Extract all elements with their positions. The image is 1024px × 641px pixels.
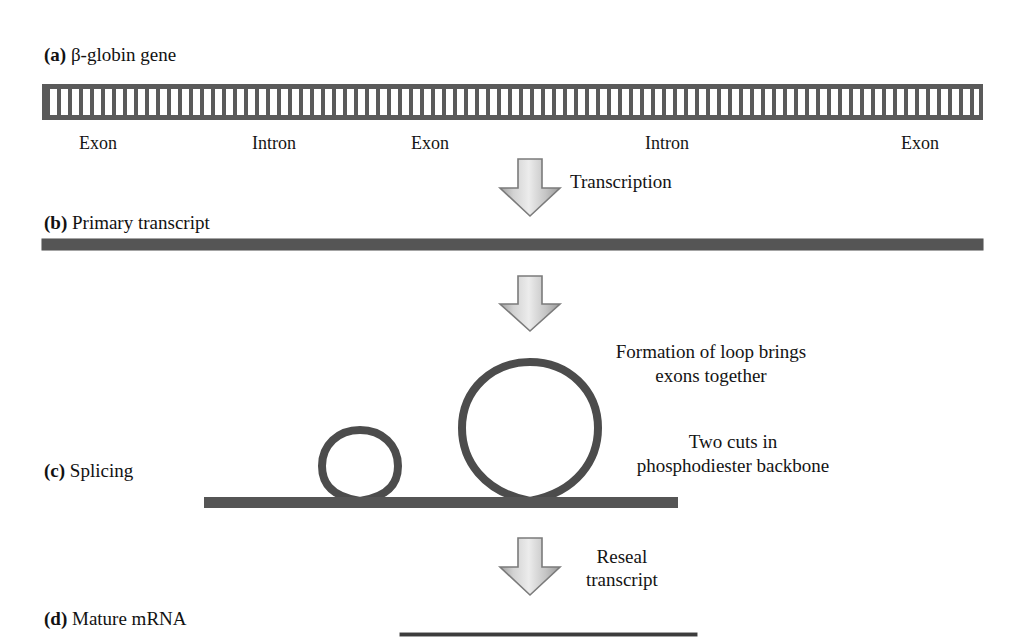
intron-loop-large (462, 362, 598, 501)
gene-segment-intron-1: Intron (252, 133, 296, 153)
panel-tag-a: (a) (44, 44, 66, 65)
panel-tag-b: (b) (44, 212, 67, 233)
reseal-arrow-icon (498, 537, 562, 597)
splicing-arrow-icon (498, 275, 562, 333)
gene-ladder-rungs (46, 89, 979, 115)
splicing-backbone-strand (204, 497, 678, 508)
panel-tag-c: (c) (44, 460, 65, 481)
panel-label-d: (d) Mature mRNA (44, 608, 187, 630)
panel-label-c: (c) Splicing (44, 460, 133, 482)
panel-title-c: Splicing (70, 460, 133, 481)
figure-canvas: (a) β-globin gene Exon Intron Exon Intro… (0, 0, 1024, 641)
panel-label-b: (b) Primary transcript (44, 212, 210, 234)
splicing-diagram (200, 368, 700, 520)
panel-title-a: β-globin gene (71, 44, 176, 65)
mature-mrna-strand (400, 633, 697, 636)
step-label-transcription: Transcription (570, 170, 672, 193)
panel-tag-d: (d) (44, 608, 67, 629)
step-label-reseal: Reseal transcript (586, 545, 658, 591)
gene-segment-exon-2: Exon (411, 133, 449, 153)
gene-ladder-bar (42, 84, 983, 120)
transcription-arrow-icon (498, 158, 562, 218)
panel-label-a: (a) β-globin gene (44, 44, 176, 66)
panel-title-d: Mature mRNA (72, 608, 187, 629)
gene-segment-intron-2: Intron (645, 133, 689, 153)
step-label-reseal-line1: Reseal (586, 545, 658, 568)
gene-segment-exon-1: Exon (79, 133, 117, 153)
gene-segment-exon-3: Exon (901, 133, 939, 153)
step-label-reseal-line2: transcript (586, 568, 658, 591)
primary-transcript-strand (42, 239, 983, 250)
annotation-loop-formation-line1: Formation of loop brings (616, 340, 807, 364)
panel-title-b: Primary transcript (72, 212, 210, 233)
intron-loop-small (322, 430, 398, 501)
